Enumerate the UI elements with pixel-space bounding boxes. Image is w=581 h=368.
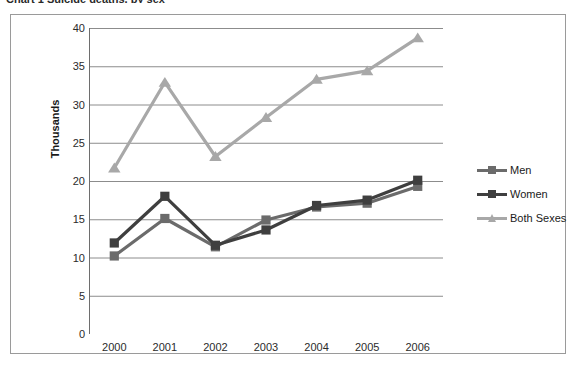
legend-item-both-sexes[interactable]: Both Sexes — [477, 206, 573, 230]
y-tick-label-35: 35 — [59, 61, 85, 72]
marker-women-2002 — [211, 241, 220, 250]
series-women — [110, 176, 423, 250]
y-tick-label-25: 25 — [59, 137, 85, 148]
x-tick-label-2002: 2002 — [193, 341, 237, 354]
marker-women-2000 — [110, 238, 119, 247]
marker-women-2003 — [261, 225, 270, 234]
marker-women-2006 — [413, 176, 422, 185]
y-tick-label-20: 20 — [59, 176, 85, 187]
marker-women-2004 — [312, 201, 321, 210]
legend-item-women[interactable]: Women — [477, 182, 573, 206]
y-tick-label-5: 5 — [59, 290, 85, 301]
marker-both-sexes-2006 — [412, 33, 424, 43]
y-tick-label-0: 0 — [59, 329, 85, 340]
line-chart-svg — [89, 28, 443, 334]
marker-both-sexes-2001 — [159, 77, 171, 87]
plot-area — [89, 28, 443, 334]
x-tick-label-2004: 2004 — [295, 341, 339, 354]
legend-label: Men — [510, 164, 531, 176]
marker-men-2003 — [261, 215, 270, 224]
x-tick-label-2001: 2001 — [143, 341, 187, 354]
legend-square-marker-icon — [488, 166, 496, 174]
series-line — [114, 180, 417, 245]
x-tick-label-2005: 2005 — [345, 341, 389, 354]
cut-off-header-text: Chart 1 Suicide deaths, by sex — [6, 0, 306, 3]
legend-label: Women — [510, 188, 548, 200]
chart-legend: MenWomenBoth Sexes — [477, 158, 573, 230]
legend-swatch-icon — [477, 186, 507, 202]
series-line — [114, 38, 417, 168]
marker-men-2001 — [160, 214, 169, 223]
legend-swatch-icon — [477, 210, 507, 226]
marker-both-sexes-2000 — [108, 163, 120, 173]
x-tick-label-2000: 2000 — [92, 341, 136, 354]
legend-square-marker-icon — [488, 190, 496, 198]
marker-men-2000 — [110, 251, 119, 260]
x-tick-label-2006: 2006 — [396, 341, 440, 354]
y-tick-label-30: 30 — [59, 99, 85, 110]
y-tick-label-15: 15 — [59, 214, 85, 225]
series-both-sexes — [108, 33, 424, 173]
y-tick-label-10: 10 — [59, 252, 85, 263]
x-axis-tick-labels: 2000200120022003200420052006 — [89, 341, 443, 357]
x-tick-label-2003: 2003 — [244, 341, 288, 354]
marker-women-2005 — [363, 196, 372, 205]
legend-item-men[interactable]: Men — [477, 158, 573, 182]
series-men — [110, 182, 423, 261]
y-tick-label-40: 40 — [59, 23, 85, 34]
legend-swatch-icon — [477, 162, 507, 178]
marker-women-2001 — [160, 192, 169, 201]
chart-frame: Thousands 0510152025303540 2000200120022… — [10, 14, 566, 354]
legend-label: Both Sexes — [510, 212, 566, 224]
y-axis-tick-labels: 0510152025303540 — [55, 28, 85, 334]
legend-triangle-marker-icon — [488, 214, 496, 222]
